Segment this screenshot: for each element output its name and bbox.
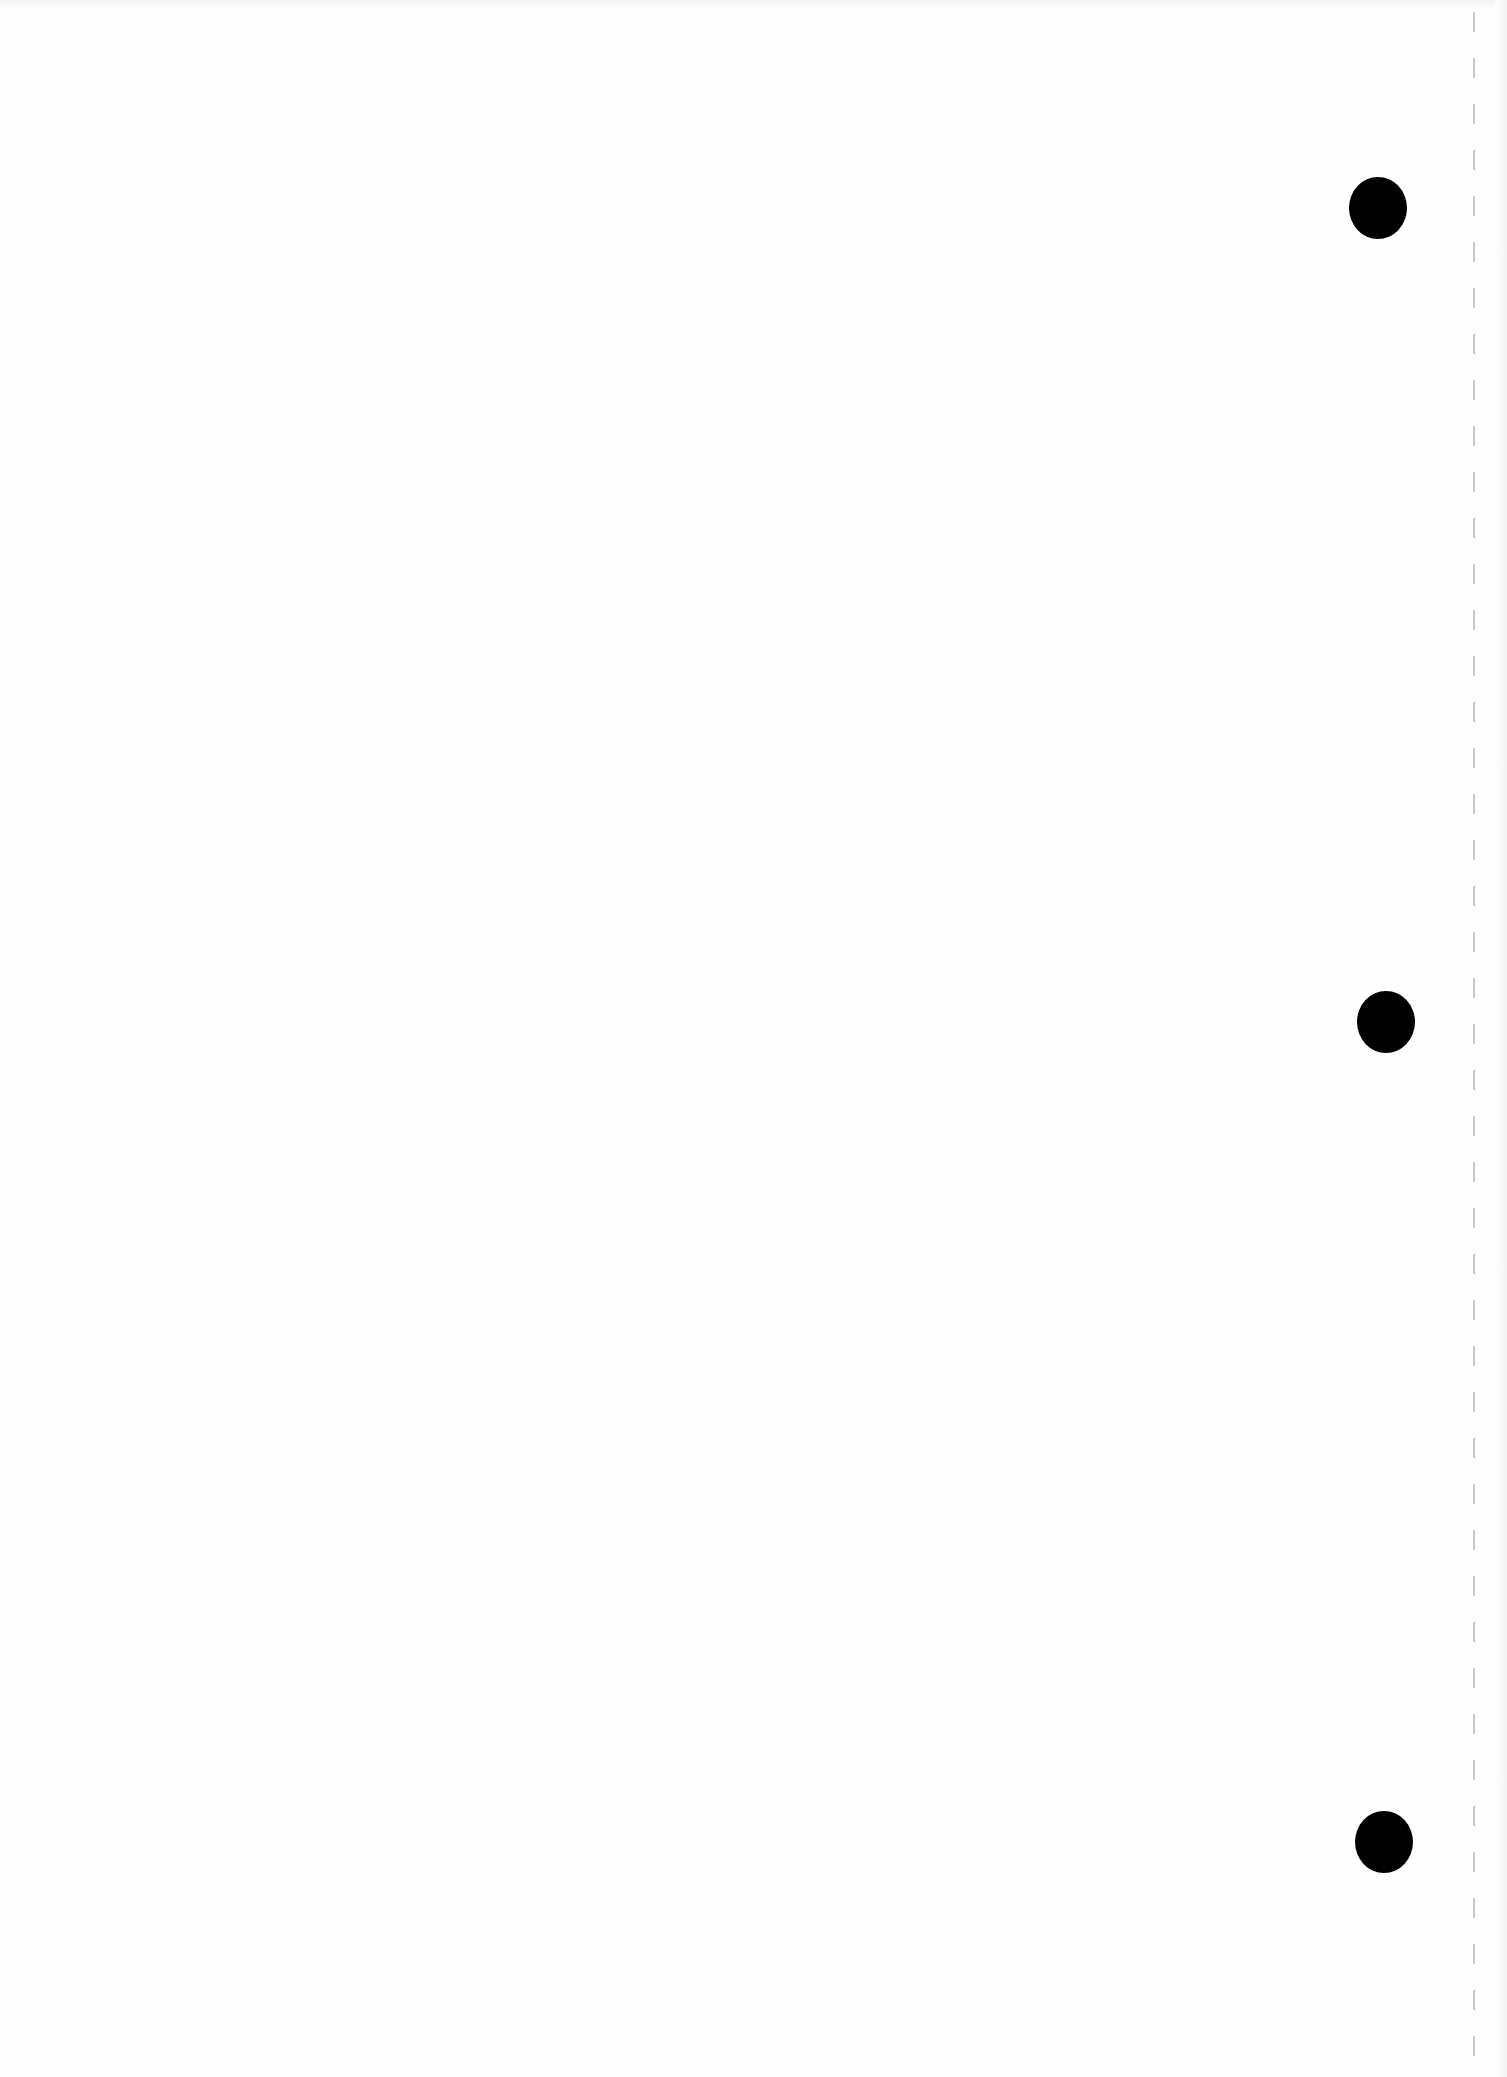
punch-hole-bottom-icon <box>1355 1811 1413 1873</box>
blank-page <box>0 0 1507 2077</box>
punch-hole-top-icon <box>1349 177 1407 239</box>
punch-hole-middle-icon <box>1357 991 1415 1053</box>
scan-right-edge <box>1495 0 1507 2077</box>
scan-top-edge <box>0 0 1507 8</box>
perforation-line <box>1473 0 1475 2077</box>
